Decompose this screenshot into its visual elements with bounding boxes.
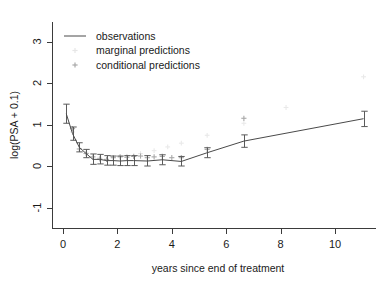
x-tick-label: 2 [114, 238, 120, 250]
x-tick-label: 0 [60, 238, 66, 250]
y-tick-label: 0 [31, 163, 43, 169]
x-tick-label: 10 [329, 238, 341, 250]
conditional-prediction-point [241, 116, 246, 121]
chart-legend: observationsmarginal predictionsconditio… [64, 30, 200, 71]
marginal-prediction-point [179, 141, 184, 146]
x-axis-title: years since end of treatment [152, 262, 285, 274]
y-axis-title: log(PSA + 0.1) [8, 91, 20, 159]
conditional-prediction-point [90, 154, 95, 159]
chart-canvas: -10123 0246810 log(PSA + 0.1) years sinc… [0, 0, 381, 292]
legend-key-point [72, 48, 77, 53]
y-axis-tick-labels: -10123 [31, 38, 43, 212]
conditional-prediction-point [152, 154, 157, 159]
x-tick-label: 4 [169, 238, 175, 250]
marginal-prediction-point [284, 105, 289, 110]
y-axis-ticks [47, 42, 53, 208]
conditional-prediction-point [138, 153, 143, 158]
observations-line [66, 114, 363, 162]
x-axis-tick-labels: 0246810 [60, 238, 341, 250]
chart-figure: -10123 0246810 log(PSA + 0.1) years sinc… [0, 0, 381, 292]
conditional-prediction-point [131, 154, 136, 159]
y-tick-label: 1 [31, 121, 43, 127]
conditional-prediction-point [104, 157, 109, 162]
x-axis-ticks [64, 229, 336, 235]
legend-label: marginal predictions [96, 44, 190, 56]
y-tick-label: -1 [31, 203, 43, 213]
legend-label: conditional predictions [96, 59, 200, 71]
marginal-prediction-point [152, 148, 157, 153]
y-tick-label: 3 [31, 38, 43, 44]
marginal-prediction-point [241, 121, 246, 126]
y-tick-label: 2 [31, 80, 43, 86]
marginal-prediction-point [205, 133, 210, 138]
x-tick-label: 8 [278, 238, 284, 250]
observation-error-bars [63, 104, 367, 166]
x-tick-label: 6 [223, 238, 229, 250]
marginal-prediction-point [361, 74, 366, 79]
legend-label: observations [96, 30, 156, 42]
conditional-prediction-point [169, 155, 174, 160]
legend-key-point [72, 62, 77, 67]
marginal-prediction-point [165, 145, 170, 150]
conditional-predictions-points [70, 116, 247, 162]
marginal-predictions-points [70, 74, 366, 159]
